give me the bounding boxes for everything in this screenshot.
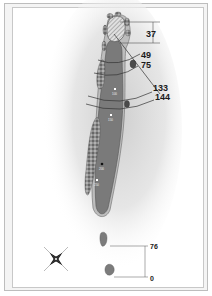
svg-text:250: 250 bbox=[94, 183, 99, 187]
tee-front bbox=[105, 264, 114, 275]
green-depth-label: 37 bbox=[146, 29, 156, 39]
compass-icon bbox=[44, 247, 68, 271]
distance-144: 144 bbox=[155, 92, 170, 102]
svg-text:200: 200 bbox=[99, 167, 104, 171]
hole-diagram: 37 49 75 133 144 100 150 200 250 76 0 bbox=[0, 0, 212, 296]
distance-49: 49 bbox=[141, 50, 151, 60]
tee-distance-76: 76 bbox=[150, 243, 158, 250]
svg-text:150: 150 bbox=[108, 118, 113, 122]
distance-75: 75 bbox=[141, 60, 151, 70]
green bbox=[107, 16, 125, 42]
tee-distance-0: 0 bbox=[150, 275, 154, 282]
svg-text:100: 100 bbox=[112, 92, 117, 96]
